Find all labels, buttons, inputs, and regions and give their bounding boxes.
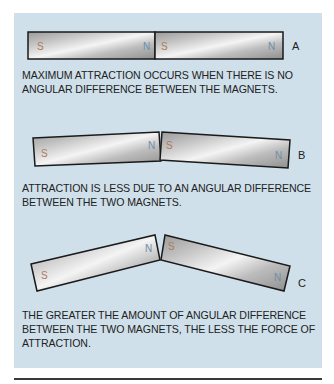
pole-s: S (161, 41, 168, 52)
pole-n: N (268, 41, 275, 52)
caption-c: THE GREATER THE AMOUNT OF ANGULAR DIFFER… (22, 308, 315, 350)
pole-s: S (168, 241, 175, 252)
pole-s: S (41, 270, 48, 281)
pole-s: S (166, 140, 173, 151)
caption-line: BETWEEN THE TWO MAGNETS. (22, 195, 311, 209)
pole-s: S (41, 148, 48, 159)
caption-line: ATTRACTION. (22, 336, 315, 350)
magnet-pair-c: S N S N (31, 235, 290, 291)
caption-line: ANGULAR DIFFERENCE BETWEEN THE MAGNETS. (22, 82, 293, 96)
pole-s: S (37, 41, 44, 52)
pole-n: N (143, 41, 150, 52)
pole-n: N (148, 140, 155, 151)
pole-n: N (275, 150, 282, 161)
panel-label-c: C (298, 277, 306, 289)
magnet-b-right (160, 132, 290, 168)
magnet-b-left (33, 132, 161, 166)
magnet-pair-a: S N S N (28, 32, 283, 59)
magnet-pair-b: S N S N (33, 132, 290, 168)
pole-n: N (274, 272, 281, 283)
pole-n: N (145, 243, 152, 254)
caption-line: MAXIMUM ATTRACTION OCCURS WHEN THERE IS … (22, 68, 293, 82)
magnet-c-right (161, 235, 290, 291)
panel-label-a: A (292, 40, 299, 52)
caption-line: THE GREATER THE AMOUNT OF ANGULAR DIFFER… (22, 308, 315, 322)
caption-a: MAXIMUM ATTRACTION OCCURS WHEN THERE IS … (22, 68, 293, 96)
magnet-a-left (28, 32, 155, 59)
magnet-c-left (31, 235, 160, 291)
caption-b: ATTRACTION IS LESS DUE TO AN ANGULAR DIF… (22, 181, 311, 209)
magnet-a-right (155, 32, 283, 59)
caption-line: BETWEEN THE TWO MAGNETS, THE LESS THE FO… (22, 322, 315, 336)
caption-line: ATTRACTION IS LESS DUE TO AN ANGULAR DIF… (22, 181, 311, 195)
bottom-rule (14, 378, 322, 380)
panel-label-b: B (298, 149, 305, 161)
